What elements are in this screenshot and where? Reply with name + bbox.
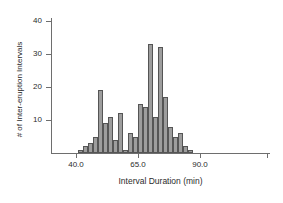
histogram-bar [118, 113, 123, 153]
bar-series [0, 0, 283, 203]
histogram-bar [188, 150, 193, 153]
histogram-figure: 10 20 30 40 40.0 65.0 90.0 # of Inter-er… [0, 0, 283, 203]
plot-area: 10 20 30 40 40.0 65.0 90.0 # of Inter-er… [0, 0, 283, 203]
